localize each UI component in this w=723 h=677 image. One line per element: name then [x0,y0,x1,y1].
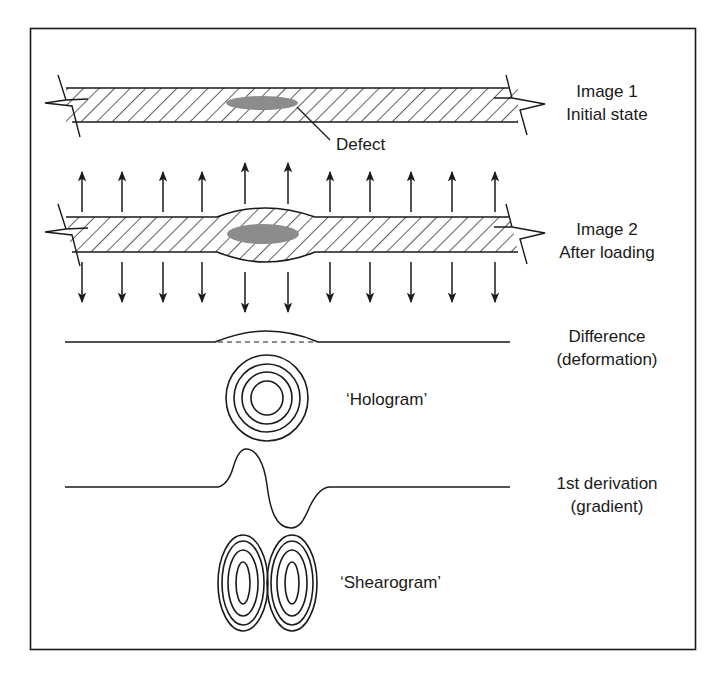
image2-subtitle: After loading [559,243,654,262]
image1-subtitle: Initial state [566,105,647,124]
load-arrows-down [82,262,495,312]
gradient-profile [65,449,510,528]
specimen-loaded [45,204,545,266]
image2-title: Image 2 [576,220,637,239]
shearography-diagram: Defect Image 1 Initial state Image 2 Aft… [0,0,723,677]
hologram-label: ‘Hologram’ [346,390,427,409]
defect-ellipse [226,96,298,110]
shearogram-label: ‘Shearogram’ [340,573,441,592]
derivation-title: 1st derivation [556,474,657,493]
load-arrows-up [82,163,495,212]
hologram-fringes [226,355,308,441]
shearogram-fringes [218,535,317,631]
defect-ellipse-loaded [227,224,299,244]
image1-title: Image 1 [576,82,637,101]
defect-label: Defect [336,135,385,154]
difference-subtitle: (deformation) [556,350,657,369]
derivation-subtitle: (gradient) [571,497,644,516]
deformation-profile [65,331,510,342]
difference-title: Difference [568,327,645,346]
specimen-initial [40,75,545,140]
